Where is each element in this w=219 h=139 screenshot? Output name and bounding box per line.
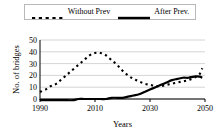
x-tick-labels: 1990201020302050	[32, 104, 213, 113]
series-line-2	[40, 76, 202, 100]
y-tick-label: 10	[29, 83, 37, 92]
x-tick-label: 2030	[142, 104, 158, 113]
chart-plot-area: 01020304050 1990201020302050 Years No. o…	[0, 0, 219, 139]
data-series-layer	[40, 53, 202, 101]
x-tick-label: 1990	[32, 104, 48, 113]
y-tick-label: 50	[29, 36, 37, 45]
chart-svg: 01020304050 1990201020302050 Years No. o…	[0, 0, 219, 139]
y-axis-title: No. of bridges	[11, 45, 21, 94]
y-tick-label: 30	[29, 60, 37, 69]
series-line-1	[40, 53, 202, 92]
x-axis-title: Years	[113, 119, 132, 129]
y-tick-labels: 01020304050	[29, 36, 37, 104]
y-tick-label: 0	[33, 95, 37, 104]
y-tick-label: 40	[29, 48, 37, 57]
x-tick-label: 2010	[87, 104, 103, 113]
y-tick-label: 20	[29, 71, 37, 80]
x-tick-label: 2050	[197, 104, 213, 113]
chart-screenshot: Without Prev After Prev. 01020304050 199…	[0, 0, 219, 139]
